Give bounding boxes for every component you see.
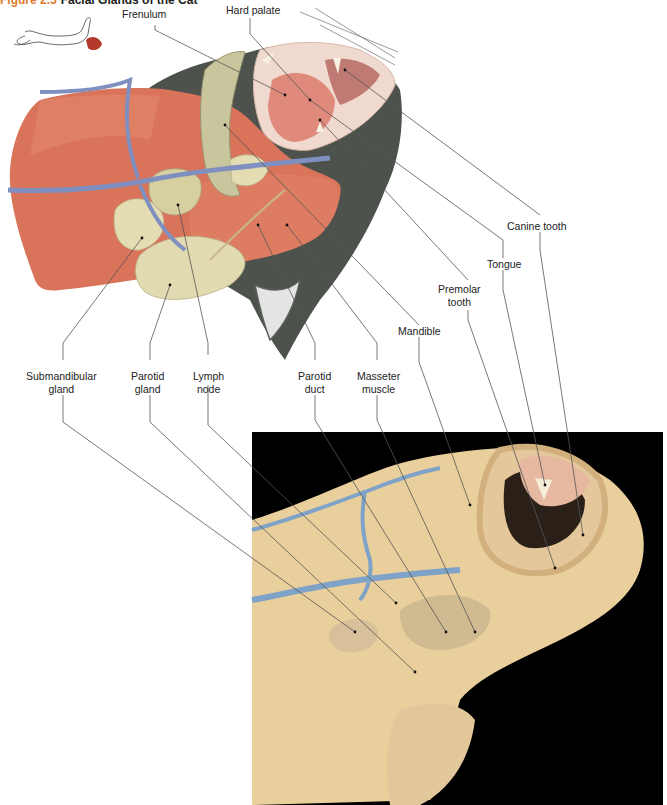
anatomy-figure — [0, 0, 667, 805]
illustration — [8, 8, 402, 360]
label-hard-palate: Hard palate — [226, 4, 280, 17]
label-submandibular-gland: Submandibular gland — [26, 370, 97, 396]
label-mandible: Mandible — [398, 325, 441, 338]
label-masseter-muscle: Masseter muscle — [357, 370, 400, 396]
dissection-photo — [252, 432, 663, 805]
label-canine-tooth: Canine tooth — [507, 220, 567, 233]
label-parotid-gland: Parotid gland — [131, 370, 164, 396]
orientation-cat-icon — [14, 18, 102, 50]
label-lymph-node: Lymph node — [193, 370, 224, 396]
label-frenulum: Frenulum — [122, 8, 166, 21]
label-tongue: Tongue — [487, 258, 521, 271]
label-parotid-duct: Parotid duct — [298, 370, 331, 396]
label-premolar-tooth: Premolar tooth — [438, 283, 481, 309]
